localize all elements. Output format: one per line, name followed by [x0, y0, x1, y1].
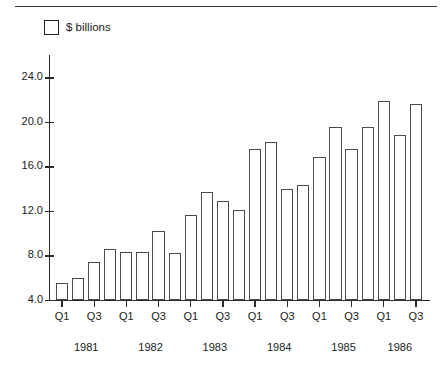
- bar: [136, 252, 148, 300]
- year-label-1985: 1985: [331, 341, 355, 354]
- bar: [233, 210, 245, 300]
- y-tick-mark: [45, 166, 54, 167]
- year-label-1982: 1982: [138, 341, 162, 354]
- x-tick-mark: [415, 300, 416, 307]
- x-tick-label-q3-9: Q3: [344, 310, 359, 323]
- bar: [104, 249, 116, 300]
- plot-area: 4.08.012.016.020.024.0 Q1Q3Q1Q3Q1Q3Q1Q3Q…: [49, 55, 430, 301]
- bar: [201, 192, 213, 300]
- y-tick-mark: [45, 300, 54, 301]
- x-tick-mark: [287, 300, 288, 307]
- bar: [410, 104, 422, 300]
- bar: [329, 127, 341, 300]
- bar: [378, 101, 390, 300]
- bar: [297, 185, 309, 300]
- bar: [217, 201, 229, 300]
- bar: [362, 127, 374, 300]
- x-tick-label-q1-2: Q1: [119, 310, 134, 323]
- bar: [120, 252, 132, 300]
- bar: [88, 262, 100, 300]
- x-tick-label-q3-7: Q3: [280, 310, 295, 323]
- bar: [72, 278, 84, 300]
- bar: [169, 253, 181, 300]
- x-axis-line: [49, 300, 430, 301]
- y-tick-mark: [45, 255, 54, 256]
- top-divider-rule: [15, 6, 437, 7]
- bar: [345, 149, 357, 300]
- x-tick-mark: [254, 300, 255, 307]
- x-tick-mark: [190, 300, 191, 307]
- year-label-1986: 1986: [388, 341, 412, 354]
- x-tick-label-q3-1: Q3: [87, 310, 102, 323]
- x-tick-label-q1-0: Q1: [55, 310, 70, 323]
- x-tick-mark: [126, 300, 127, 307]
- y-tick-label: 12.0: [22, 204, 43, 217]
- legend-swatch-icon: [44, 20, 59, 35]
- x-tick-label-q1-6: Q1: [248, 310, 263, 323]
- y-tick-label: 24.0: [22, 70, 43, 83]
- x-tick-mark: [319, 300, 320, 307]
- chart-figure: $ billions 4.08.012.016.020.024.0 Q1Q3Q1…: [0, 0, 445, 366]
- year-label-1981: 1981: [74, 341, 98, 354]
- y-tick-mark: [45, 122, 54, 123]
- y-tick-label: 20.0: [22, 115, 43, 128]
- bar: [265, 142, 277, 300]
- y-tick-mark: [45, 77, 54, 78]
- x-tick-label-q3-5: Q3: [216, 310, 231, 323]
- y-tick-mark: [45, 211, 54, 212]
- x-tick-label-q1-4: Q1: [183, 310, 198, 323]
- x-tick-label-q3-3: Q3: [151, 310, 166, 323]
- x-tick-mark: [222, 300, 223, 307]
- bar: [56, 283, 68, 300]
- bar: [152, 231, 164, 300]
- y-axis-line: [49, 55, 50, 301]
- x-tick-mark: [383, 300, 384, 307]
- x-tick-mark: [158, 300, 159, 307]
- legend-label: $ billions: [66, 22, 111, 34]
- x-tick-label-q3-11: Q3: [409, 310, 424, 323]
- x-tick-label-q1-10: Q1: [376, 310, 391, 323]
- chart-legend: $ billions: [44, 20, 111, 35]
- bar: [394, 135, 406, 300]
- x-tick-mark: [61, 300, 62, 307]
- x-tick-mark: [351, 300, 352, 307]
- y-tick-label: 16.0: [22, 159, 43, 172]
- x-tick-label-q1-8: Q1: [312, 310, 327, 323]
- year-label-1983: 1983: [203, 341, 227, 354]
- y-tick-label: 8.0: [28, 248, 43, 261]
- bar: [281, 189, 293, 300]
- x-tick-mark: [94, 300, 95, 307]
- y-tick-label: 4.0: [28, 293, 43, 306]
- bar: [249, 149, 261, 300]
- bar: [313, 157, 325, 300]
- year-label-1984: 1984: [267, 341, 291, 354]
- bar: [185, 215, 197, 300]
